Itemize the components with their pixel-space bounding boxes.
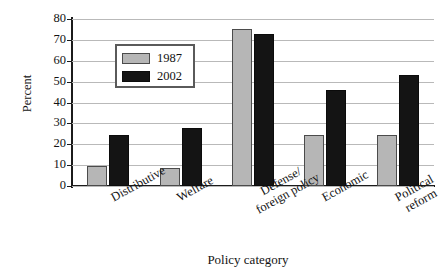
y-tick-label-0: 0	[42, 179, 66, 192]
y-tick-label-20: 20	[42, 137, 66, 150]
y-tick-80	[67, 19, 72, 20]
legend-swatch-2002	[122, 71, 150, 82]
x-axis-title: Policy category	[0, 252, 448, 268]
y-tick-label-40: 40	[42, 96, 66, 109]
legend-label-1987: 1987	[157, 52, 182, 65]
y-tick-40	[67, 103, 72, 104]
y-tick-70	[67, 40, 72, 41]
legend: 1987 2002	[115, 44, 195, 88]
gridline-70	[72, 40, 434, 41]
y-tick-0	[67, 186, 72, 187]
y-tick-60	[67, 61, 72, 62]
legend-item-2002: 2002	[122, 69, 182, 84]
y-tick-20	[67, 144, 72, 145]
y-tick-50	[67, 82, 72, 83]
y-tick-label-60: 60	[42, 54, 66, 67]
y-tick-label-10: 10	[42, 158, 66, 171]
y-tick-label-80: 80	[42, 12, 66, 25]
y-tick-label-30: 30	[42, 116, 66, 129]
y-tick-label-70: 70	[42, 33, 66, 46]
legend-swatch-1987	[122, 53, 150, 64]
bar-1987-0	[87, 166, 107, 186]
bar-2002-3	[326, 90, 346, 186]
bar-1987-4	[377, 135, 397, 186]
y-tick-10	[67, 165, 72, 166]
y-tick-label-50: 50	[42, 75, 66, 88]
bar-1987-2	[232, 29, 252, 186]
chart-figure: 01020304050607080 Percent DistributiveWe…	[0, 0, 448, 277]
bar-2002-0	[109, 135, 129, 186]
y-axis-title: Percent	[20, 59, 35, 129]
bar-2002-2	[254, 34, 274, 186]
y-tick-30	[67, 123, 72, 124]
legend-label-2002: 2002	[157, 70, 182, 83]
legend-item-1987: 1987	[122, 51, 182, 66]
gridline-40	[72, 103, 434, 104]
gridline-30	[72, 123, 434, 124]
gridline-80	[72, 19, 434, 20]
bar-2002-4	[399, 75, 419, 186]
y-axis-tick-labels: 01020304050607080	[38, 19, 66, 186]
